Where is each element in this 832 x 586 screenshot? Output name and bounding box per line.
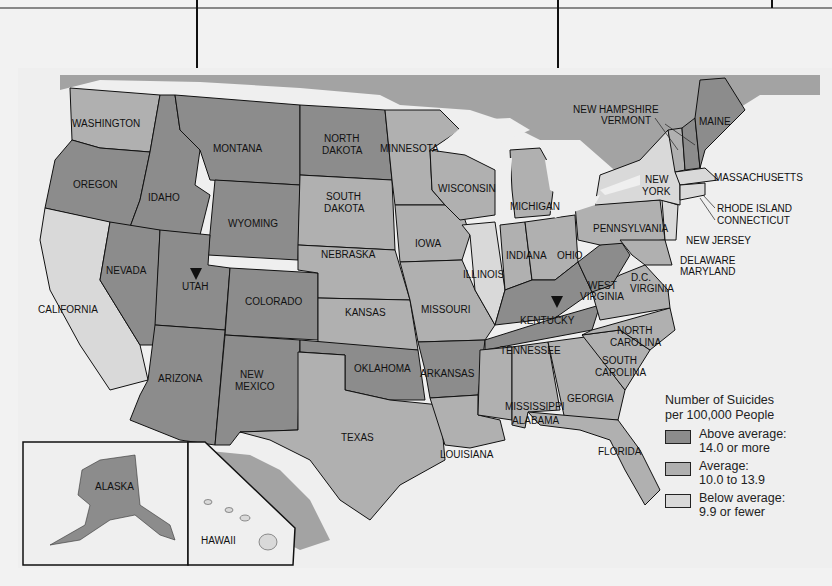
label-dc: D.C. — [631, 272, 651, 283]
label-new-mexico-1: NEW — [240, 369, 264, 380]
label-idaho: IDAHO — [148, 192, 180, 203]
label-indiana: INDIANA — [506, 250, 547, 261]
label-west-virginia-2: VIRGINIA — [580, 291, 624, 302]
label-south-dakota-2: DAKOTA — [324, 203, 365, 214]
label-illinois: ILLINOIS — [463, 269, 504, 280]
label-washington: WASHINGTON — [72, 118, 140, 129]
label-maine: MAINE — [699, 116, 731, 127]
label-nebraska: NEBRASKA — [321, 249, 376, 260]
label-new-hampshire: NEW HAMPSHIRE — [573, 104, 659, 115]
label-west-virginia-1: WEST — [588, 280, 617, 291]
legend-item-below: Below average:9.9 or fewer — [665, 491, 830, 519]
legend-swatch-below — [665, 494, 691, 508]
label-wyoming: WYOMING — [228, 218, 278, 229]
legend-item-average: Average:10.0 to 13.9 — [665, 459, 830, 487]
label-colorado: COLORADO — [245, 296, 302, 307]
label-south-carolina-2: CAROLINA — [595, 367, 646, 378]
label-pennsylvania: PENNSYLVANIA — [593, 223, 669, 234]
label-montana: MONTANA — [213, 143, 263, 154]
label-missouri: MISSOURI — [421, 304, 470, 315]
label-tennessee: TENNESSEE — [500, 345, 561, 356]
state-kansas — [318, 298, 418, 350]
label-new-mexico-2: MEXICO — [235, 381, 275, 392]
legend-range-above: 14.0 or more — [699, 441, 787, 455]
legend-swatch-average — [665, 462, 691, 476]
label-massachusetts: MASSACHUSETTS — [714, 172, 803, 183]
label-arkansas: ARKANSAS — [420, 368, 475, 379]
label-kentucky: KENTUCKY — [520, 315, 575, 326]
legend-range-below: 9.9 or fewer — [699, 505, 785, 519]
label-nevada: NEVADA — [106, 265, 147, 276]
legend-item-above: Above average:14.0 or more — [665, 427, 830, 455]
label-texas: TEXAS — [341, 432, 374, 443]
label-arizona: ARIZONA — [158, 373, 203, 384]
label-north-carolina-1: NORTH — [617, 325, 652, 336]
label-oklahoma: OKLAHOMA — [354, 363, 411, 374]
label-new-jersey: NEW JERSEY — [686, 235, 751, 246]
legend-label-below: Below average: — [699, 491, 785, 505]
label-new-york-2: YORK — [642, 186, 671, 197]
label-delaware: DELAWARE — [680, 255, 736, 266]
label-ohio: OHIO — [557, 250, 583, 261]
label-mississippi: MISSISSIPPI — [505, 401, 564, 412]
legend-title-line1: Number of Suicides — [665, 393, 830, 408]
legend-label-above: Above average: — [699, 427, 787, 441]
legend-swatch-above — [665, 430, 691, 444]
label-alabama: ALABAMA — [512, 415, 560, 426]
label-new-york-1: NEW — [645, 174, 669, 185]
label-south-carolina-1: SOUTH — [602, 355, 637, 366]
label-north-carolina-2: CAROLINA — [610, 337, 661, 348]
label-louisiana: LOUISIANA — [440, 449, 494, 460]
label-georgia: GEORGIA — [567, 393, 614, 404]
label-california: CALIFORNIA — [38, 304, 98, 315]
label-vermont: VERMONT — [601, 115, 651, 126]
label-maryland: MARYLAND — [680, 266, 735, 277]
label-minnesota: MINNESOTA — [380, 143, 439, 154]
legend-title-line2: per 100,000 People — [665, 408, 830, 423]
label-north-dakota-2: DAKOTA — [322, 145, 363, 156]
label-michigan: MICHIGAN — [510, 201, 560, 212]
legend-label-average: Average: — [699, 459, 765, 473]
label-south-dakota-1: SOUTH — [326, 191, 361, 202]
state-new-jersey — [662, 200, 678, 240]
top-rule — [0, 0, 832, 9]
label-kansas: KANSAS — [345, 307, 386, 318]
legend-range-average: 10.0 to 13.9 — [699, 473, 765, 487]
label-florida: FLORIDA — [598, 446, 642, 457]
label-iowa: IOWA — [415, 238, 442, 249]
label-oregon: OREGON — [73, 179, 117, 190]
label-hawaii: HAWAII — [201, 535, 236, 546]
label-rhode-island: RHODE ISLAND — [717, 203, 792, 214]
label-wisconsin: WISCONSIN — [438, 183, 496, 194]
label-utah: UTAH — [182, 281, 208, 292]
label-virginia: VIRGINIA — [630, 283, 674, 294]
label-connecticut: CONNECTICUT — [717, 215, 790, 226]
top-divider — [771, 0, 773, 8]
label-north-dakota-1: NORTH — [324, 133, 359, 144]
label-alaska: ALASKA — [95, 481, 134, 492]
map-legend: Number of Suicides per 100,000 People Ab… — [665, 393, 830, 519]
